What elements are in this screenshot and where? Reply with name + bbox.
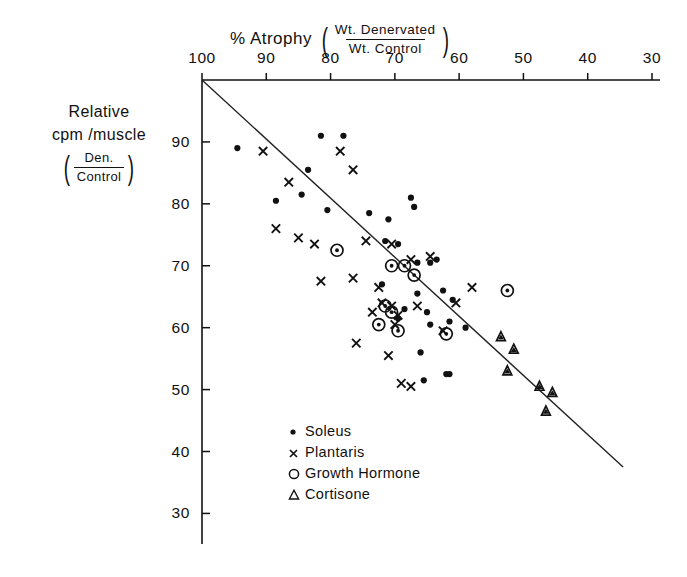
data-point-plantaris — [368, 308, 376, 316]
data-point-soleus — [421, 377, 427, 383]
data-point-soleus — [234, 145, 240, 151]
data-point-plantaris — [384, 351, 392, 359]
data-point-plantaris — [310, 240, 318, 248]
legend-label-cortisone: Cortisone — [305, 486, 370, 502]
legend-item-cortisone: Cortisone — [288, 483, 420, 504]
data-point-plantaris — [317, 277, 325, 285]
filled-circle-icon — [288, 424, 305, 438]
data-point-soleus — [427, 321, 433, 327]
legend-label-plantaris: Plantaris — [305, 444, 365, 460]
data-point-growth-hormone-center — [335, 248, 339, 252]
data-point-growth-hormone-center — [505, 289, 509, 293]
data-point-growth-hormone-center — [403, 264, 407, 268]
data-point-plantaris — [413, 302, 421, 310]
data-point-soleus — [440, 287, 446, 293]
data-point-soleus — [462, 325, 468, 331]
legend-item-growth-hormone: Growth Hormone — [288, 462, 420, 483]
data-point-growth-hormone-center — [377, 323, 381, 327]
data-point-soleus — [324, 207, 330, 213]
data-point-plantaris — [352, 339, 360, 347]
scatter-chart-figure: % Atrophy ( Wt. Denervated Wt. Control )… — [0, 0, 687, 577]
data-point-soleus — [395, 241, 401, 247]
legend-label-soleus: Soleus — [305, 423, 351, 439]
data-point-soleus — [414, 291, 420, 297]
data-point-plantaris — [407, 255, 415, 263]
data-point-soleus — [366, 210, 372, 216]
data-point-soleus — [417, 349, 423, 355]
data-point-soleus — [340, 133, 346, 139]
data-point-soleus — [424, 309, 430, 315]
legend-label-growth-hormone: Growth Hormone — [305, 465, 420, 481]
data-point-plantaris — [349, 274, 357, 282]
data-point-soleus — [273, 198, 279, 204]
x-mark-icon — [288, 445, 305, 459]
triangle-icon — [288, 487, 305, 501]
data-point-plantaris — [259, 147, 267, 155]
data-point-plantaris — [468, 283, 476, 291]
data-point-plantaris — [375, 283, 383, 291]
data-point-soleus — [446, 371, 452, 377]
legend-item-plantaris: Plantaris — [288, 441, 420, 462]
data-point-soleus — [318, 133, 324, 139]
trend-line — [202, 80, 623, 467]
data-point-growth-hormone-center — [396, 329, 400, 333]
data-point-plantaris — [336, 147, 344, 155]
data-point-soleus — [299, 191, 305, 197]
data-point-growth-hormone-center — [383, 304, 387, 308]
data-point-plantaris — [387, 240, 395, 248]
data-point-plantaris — [294, 234, 302, 242]
data-point-soleus — [385, 216, 391, 222]
data-point-growth-hormone-center — [444, 332, 448, 336]
data-point-plantaris — [362, 237, 370, 245]
data-point-plantaris — [407, 382, 415, 390]
chart-legend: Soleus Plantaris Growth Hormone Cortison… — [288, 420, 420, 504]
data-point-growth-hormone-center — [390, 310, 394, 314]
data-point-soleus — [446, 318, 452, 324]
data-point-soleus — [411, 204, 417, 210]
legend-item-soleus: Soleus — [288, 420, 420, 441]
open-circle-icon — [288, 466, 305, 480]
data-point-plantaris — [452, 299, 460, 307]
data-point-growth-hormone-center — [390, 264, 394, 268]
data-point-plantaris — [426, 252, 434, 260]
data-point-plantaris — [272, 224, 280, 232]
data-point-plantaris — [285, 178, 293, 186]
data-point-plantaris — [397, 379, 405, 387]
data-point-growth-hormone-center — [412, 273, 416, 277]
data-point-soleus — [427, 260, 433, 266]
data-point-soleus — [305, 167, 311, 173]
data-point-plantaris — [349, 166, 357, 174]
data-point-soleus — [408, 195, 414, 201]
